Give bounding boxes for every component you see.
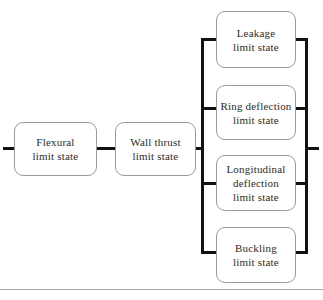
connector-left-bus (201, 38, 204, 253)
node-leakage-limit-state-label: Leakage limit state (217, 26, 295, 54)
node-ring-deflection-limit-state: Ring deflection limit state (216, 85, 296, 140)
connector-left-bus-to-longitudinal (201, 182, 217, 185)
limit-state-flowchart: Flexural limit state Wall thrust limit s… (0, 0, 323, 300)
node-buckling-limit-state: Buckling limit state (216, 227, 296, 283)
node-wall-thrust-limit-state-label: Wall thrust limit state (116, 135, 195, 163)
node-wall-thrust-limit-state: Wall thrust limit state (115, 122, 196, 176)
connector-exit-stub (305, 147, 319, 150)
node-leakage-limit-state: Leakage limit state (216, 11, 296, 68)
node-longitudinal-deflection-limit-state: Longitudinal deflection limit state (216, 155, 296, 211)
connector-left-bus-to-ring (201, 107, 217, 110)
node-flexural-limit-state-label: Flexural limit state (15, 135, 96, 163)
connector-flexural-to-wallthrust (96, 147, 116, 150)
node-longitudinal-deflection-limit-state-label: Longitudinal deflection limit state (217, 162, 295, 204)
connector-entry-stub (3, 147, 14, 150)
node-ring-deflection-limit-state-label: Ring deflection limit state (217, 99, 295, 127)
connector-left-bus-to-leakage (201, 38, 217, 41)
page-divider-rule (0, 289, 323, 290)
connector-right-bus (305, 38, 308, 253)
node-flexural-limit-state: Flexural limit state (14, 122, 97, 176)
node-buckling-limit-state-label: Buckling limit state (217, 241, 295, 269)
connector-left-bus-to-buckling (201, 251, 217, 254)
